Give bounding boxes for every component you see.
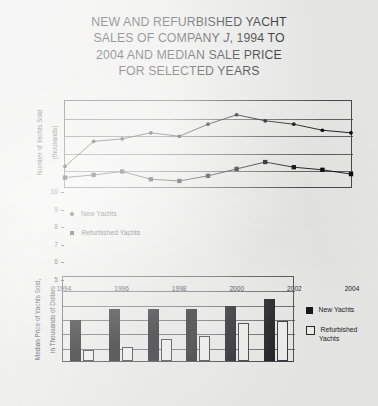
bar-chart-plot-area — [62, 276, 294, 362]
page-title-line-2: SALES OF COMPANY J, 1994 TO — [0, 30, 378, 46]
bar-chart-y-axis-title-line-2: in Thousands of Dollars — [49, 286, 56, 353]
bar-new-2000 — [186, 309, 197, 361]
y-tick-mark — [61, 262, 64, 263]
data-point-square — [206, 174, 210, 178]
bar-chart: Median Price of Yachts Sold, in Thousand… — [0, 268, 378, 406]
data-point-circle — [235, 113, 239, 117]
data-point-square — [149, 177, 153, 181]
y-tick-mark — [61, 245, 64, 246]
bar-ref-1998 — [161, 339, 172, 361]
square-marker-icon — [70, 231, 74, 235]
page-title: NEW AND REFURBISHED YACHT SALES OF COMPA… — [0, 14, 378, 80]
bar-new-1994 — [70, 320, 81, 361]
data-point-square — [120, 169, 124, 173]
bar-new-2002 — [225, 306, 236, 361]
line-chart-y-axis-title: Number of Yachts Sold (thousands) — [28, 100, 66, 192]
y-tick-mark — [61, 192, 64, 193]
line-chart-y-axis-title-line-1: Number of Yachts Sold — [36, 110, 43, 175]
data-point-circle — [292, 122, 296, 126]
line-chart-series-svg — [65, 101, 351, 187]
data-point-circle — [120, 137, 124, 141]
bar-new-1998 — [148, 309, 159, 361]
y-tick-label: 7 — [24, 241, 58, 248]
bar-ref-1994 — [83, 350, 94, 361]
line-chart-legend-label-refurbished: Refurbished Yachts — [81, 229, 140, 236]
data-point-square — [234, 167, 238, 171]
data-point-circle — [263, 119, 267, 123]
bar-chart-legend-label-new: New Yachts — [319, 306, 355, 313]
page-title-line-2-prefix: SALES OF COMPANY — [93, 31, 223, 45]
bar-chart-y-axis-title: Median Price of Yachts Sold, in Thousand… — [26, 274, 64, 372]
data-point-circle — [63, 165, 67, 169]
page-title-line-1: NEW AND REFURBISHED YACHT — [0, 14, 378, 30]
line-chart-y-axis-title-line-2: (thousands) — [51, 126, 58, 160]
data-point-square — [91, 173, 95, 177]
bar-chart-bars — [63, 277, 293, 361]
bar-chart-legend-label-refurbished-line-1: Refurbished — [321, 326, 358, 333]
series-line — [65, 162, 351, 181]
line-chart: Number of Yachts Sold (thousands) 567891… — [0, 92, 378, 262]
data-point-square — [292, 165, 296, 169]
y-tick-mark — [61, 227, 64, 228]
bar-chart-legend-item-refurbished: Refurbished Yachts — [306, 326, 357, 343]
data-point-square — [63, 175, 67, 179]
bar-ref-1996 — [122, 347, 133, 361]
data-point-circle — [206, 122, 210, 126]
data-point-square — [177, 179, 181, 183]
page-title-line-4: FOR SELECTED YEARS — [0, 63, 378, 79]
bar-ref-2004 — [277, 321, 288, 361]
y-tick-label: 6 — [24, 258, 58, 265]
page-title-line-2-suffix: , 1994 TO — [229, 31, 284, 45]
data-point-circle — [349, 131, 353, 135]
bar-ref-2000 — [199, 336, 210, 361]
y-tick-label: 10 — [24, 188, 58, 195]
filled-square-swatch-icon — [306, 307, 313, 314]
y-tick-mark — [61, 210, 64, 211]
data-point-square — [349, 172, 353, 176]
bar-chart-legend-label-refurbished-line-2: Yachts — [319, 335, 357, 343]
line-chart-legend-item-new: New Yachts — [70, 210, 117, 217]
data-point-square — [320, 168, 324, 172]
bar-chart-legend-item-new: New Yachts — [306, 306, 354, 314]
circle-marker-icon — [70, 212, 74, 216]
line-chart-legend-label-new: New Yachts — [81, 210, 117, 217]
y-tick-label: 8 — [24, 223, 58, 230]
y-tick-label: 9 — [24, 206, 58, 213]
page-title-line-3: 2004 AND MEDIAN SALE PRICE — [0, 47, 378, 63]
line-chart-legend-item-refurbished: Refurbished Yachts — [70, 229, 140, 236]
data-point-square — [263, 160, 267, 164]
line-chart-plot-area — [64, 100, 352, 188]
data-point-circle — [178, 134, 182, 138]
data-point-circle — [149, 131, 153, 135]
data-point-circle — [321, 128, 325, 132]
bar-ref-2002 — [238, 323, 249, 361]
data-point-circle — [92, 140, 96, 144]
bar-chart-y-axis-title-line-1: Median Price of Yachts Sold, — [34, 279, 41, 360]
open-square-swatch-icon — [306, 326, 315, 335]
bar-new-1996 — [109, 309, 120, 361]
bar-new-2004 — [264, 299, 275, 361]
